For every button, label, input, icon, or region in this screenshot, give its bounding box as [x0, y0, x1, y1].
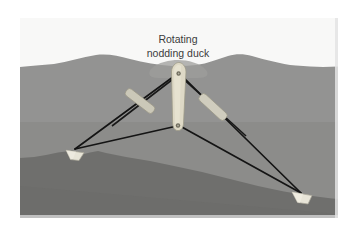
rotating-nodding-duck-body: [172, 63, 187, 131]
figure-image: Rotating nodding duck: [20, 18, 338, 218]
page-canvas: Rotating nodding duck: [0, 0, 357, 236]
figure-label-line1: Rotating: [158, 33, 197, 45]
figure-label-line2: nodding duck: [147, 47, 210, 59]
figure-edge-shadow-bottom: [20, 215, 338, 218]
figure-edge-shadow-right: [335, 18, 338, 218]
illustration-svg: Rotating nodding duck: [20, 18, 338, 218]
